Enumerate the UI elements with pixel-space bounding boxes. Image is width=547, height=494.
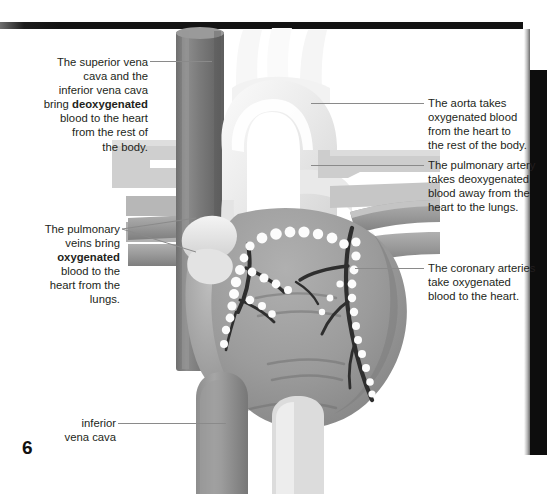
pv-line-2: veins bring — [14, 236, 120, 250]
ca-line-2: take oxygenated — [428, 275, 544, 289]
aorta-line-1: The aorta takes — [428, 96, 540, 110]
pv-line-4: blood to the — [14, 264, 120, 278]
ivc-line-1: inferior — [40, 416, 116, 430]
annotation-superior-vena-cava: The superior vena cava and the inferior … — [14, 55, 148, 154]
svc-line-4-text: bring — [44, 98, 72, 110]
textbook-page: The superior vena cava and the inferior … — [0, 0, 547, 494]
annotation-coronary-arteries: The coronary arteries take oxygenated bl… — [428, 261, 544, 303]
svc-line-6: from the rest of — [14, 125, 148, 139]
pa-line-3: blood away from the — [428, 186, 544, 200]
svc-line-4: bring deoxygenated — [14, 97, 148, 111]
aorta-line-3: from the heart to — [428, 124, 540, 138]
svc-line-3: inferior vena cava — [14, 83, 148, 97]
page-number: 6 — [22, 437, 33, 459]
svc-bold-deoxygenated: deoxygenated — [72, 98, 148, 110]
ca-line-3: blood to the heart. — [428, 289, 544, 303]
pa-line-4: heart to the lungs. — [428, 200, 544, 214]
pv-bold-text: oxygenated — [57, 251, 120, 263]
annotation-inferior-vena-cava: inferior vena cava — [40, 416, 116, 444]
pa-line-1: The pulmonary artery — [428, 158, 544, 172]
annotation-pulmonary-veins: The pulmonary veins bring oxygenated blo… — [14, 222, 120, 307]
svc-line-2: cava and the — [14, 69, 148, 83]
annotation-pulmonary-artery: The pulmonary artery takes deoxygenated … — [428, 158, 544, 214]
svc-line-5: blood to the heart — [14, 111, 148, 125]
pv-line-1: The pulmonary — [14, 222, 120, 236]
svc-line-1: The superior vena — [14, 55, 148, 69]
pv-line-6: lungs. — [14, 292, 120, 306]
pv-bold-oxygenated: oxygenated — [14, 250, 120, 264]
ca-line-1: The coronary arteries — [428, 261, 544, 275]
ivc-line-2: vena cava — [40, 430, 116, 444]
svc-line-7: the body. — [14, 140, 148, 154]
annotation-aorta: The aorta takes oxygenated blood from th… — [428, 96, 540, 152]
pa-line-2: takes deoxygenated — [428, 172, 544, 186]
pv-line-5: heart from the — [14, 278, 120, 292]
aorta-line-4: the rest of the body. — [428, 138, 540, 152]
aorta-line-2: oxygenated blood — [428, 110, 540, 124]
